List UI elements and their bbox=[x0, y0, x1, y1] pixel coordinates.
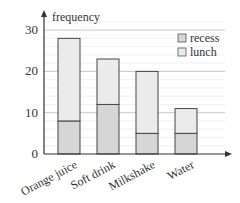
legend: recess lunch bbox=[178, 31, 220, 59]
x-tick-labels: Orange juice Soft drink Milkshake Water bbox=[18, 157, 196, 198]
x-axis-arrow-icon bbox=[225, 151, 232, 157]
bar-recess bbox=[58, 121, 80, 154]
y-tick: 20 bbox=[25, 63, 38, 78]
bar-lunch bbox=[175, 109, 197, 134]
legend-swatch-recess bbox=[178, 34, 186, 42]
legend-label-recess: recess bbox=[190, 31, 220, 45]
y-tick: 10 bbox=[25, 105, 38, 120]
y-axis-label: frequency bbox=[52, 10, 100, 24]
y-tick: 30 bbox=[25, 22, 38, 37]
y-tick: 0 bbox=[32, 146, 39, 161]
x-tick: Milkshake bbox=[106, 157, 157, 193]
y-axis-arrow-icon bbox=[41, 10, 47, 17]
bar-lunch bbox=[58, 38, 80, 121]
legend-swatch-lunch bbox=[178, 48, 186, 56]
bar-recess bbox=[97, 104, 119, 154]
y-tick-labels: 0 10 20 30 bbox=[25, 22, 38, 161]
bar-lunch bbox=[136, 71, 158, 133]
legend-label-lunch: lunch bbox=[190, 45, 217, 59]
bar-recess bbox=[175, 133, 197, 154]
bar-lunch bbox=[97, 59, 119, 104]
x-tick: Water bbox=[165, 157, 197, 183]
bar-recess bbox=[136, 133, 158, 154]
stacked-bar-chart: frequency 0 10 20 30 Orange juice Soft d… bbox=[0, 0, 240, 203]
